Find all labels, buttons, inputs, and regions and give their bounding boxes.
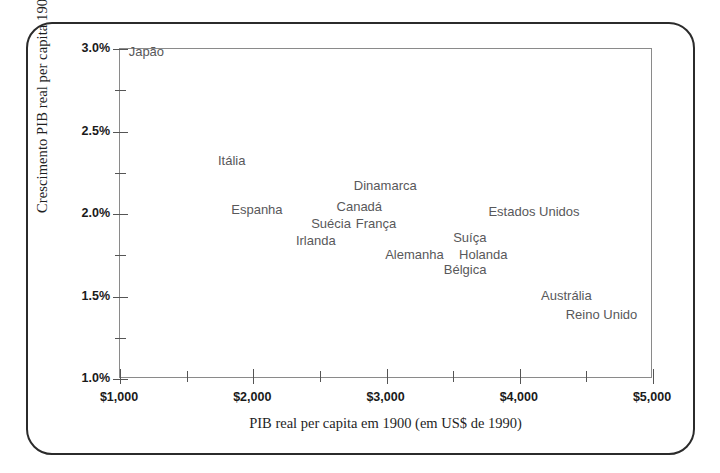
y-tick-minor [115,90,126,91]
x-tick-major [653,369,654,384]
y-tick-minor [115,173,126,174]
data-point-label: Suécia [311,216,351,231]
data-point-label: Itália [218,153,245,168]
y-tick-minor [115,255,126,256]
data-point-label: Alemanha [385,246,444,261]
data-point-label: Dinamarca [354,178,417,193]
data-point-label: Estados Unidos [488,203,579,218]
data-point-label: Bélgica [444,262,487,277]
x-tick-label: $4,000 [500,390,538,404]
data-point-label: Suíça [453,230,486,245]
x-tick-major [120,369,121,384]
x-tick-minor [187,371,188,382]
y-tick-minor [115,338,126,339]
x-tick-label: $3,000 [366,390,404,404]
x-tick-minor [453,371,454,382]
y-axis-title: Crescimento PIB real per capita 1900-200… [34,0,51,213]
x-tick-major [253,369,254,384]
data-point-label: Irlanda [296,233,336,248]
plot-area: JapãoItáliaEspanhaDinamarcaCanadáSuéciaF… [119,48,652,378]
y-tick-major [113,132,128,133]
x-tick-label: $5,000 [633,390,671,404]
y-tick-label: 1.5% [82,289,111,303]
x-tick-label: $2,000 [233,390,271,404]
y-tick-major [113,214,128,215]
x-tick-minor [320,371,321,382]
data-point-label: Japão [129,43,164,58]
y-tick-label: 1.0% [82,371,111,385]
data-point-label: Espanha [231,202,282,217]
data-point-label: França [356,216,396,231]
x-axis-title: PIB real per capita em 1900 (em US$ de 1… [119,415,652,432]
x-tick-major [387,369,388,384]
x-tick-minor [586,371,587,382]
data-point-label: Austrália [541,287,592,302]
y-tick-label: 2.0% [82,206,111,220]
data-point-label: Canadá [337,198,383,213]
data-point-label: Holanda [459,246,507,261]
y-tick-major [113,49,128,50]
y-tick-label: 3.0% [82,41,111,55]
y-tick-major [113,297,128,298]
y-tick-label: 2.5% [82,124,111,138]
x-tick-label: $1,000 [100,390,138,404]
chart-page: Crescimento PIB real per capita 1900-200… [0,0,720,473]
data-point-label: Reino Unido [566,306,638,321]
x-tick-major [520,369,521,384]
